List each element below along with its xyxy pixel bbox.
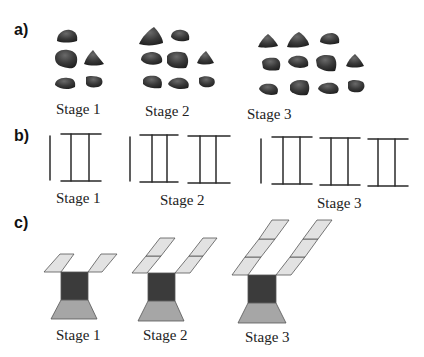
pebble [262,58,280,71]
pebble [290,80,309,95]
pattern-figure [0,0,424,357]
arm-tile-left [245,239,275,257]
pebble [287,32,309,48]
base-trapezoid [51,300,97,319]
part-a-stage-2-label: Stage 2 [145,103,190,120]
pebble [348,80,364,92]
part-c-stage-2 [132,238,217,321]
pebble [259,84,278,95]
part-c-stage-2-label: Stage 2 [143,327,188,344]
pebble [86,76,102,87]
body-square [61,272,88,300]
part-c-figure [44,220,332,323]
pebble [288,56,308,68]
part-b-stage-1-ladder [50,134,101,181]
arm-tile-right [276,257,305,275]
arm-tile-right [189,238,217,256]
part-b-stage-3-label: Stage 3 [317,195,362,212]
pebble [55,78,75,89]
part-b-figure [50,134,408,186]
pebble [199,76,215,87]
pebble [197,51,214,65]
part-b-stage-2-label: Stage 2 [160,192,205,209]
part-b-stage-3-ladder [261,137,408,186]
part-c-stage-1 [44,254,117,319]
part-a-stage-3-label: Stage 3 [247,106,292,123]
body-square [248,275,276,303]
pebble [168,78,189,89]
arm-tile-right [175,256,203,273]
pebble [346,54,364,68]
pebble [316,55,336,71]
pebble [171,30,189,41]
pebble [57,30,77,43]
part-b-stage-1-label: Stage 1 [56,190,101,207]
pebble [167,52,188,69]
part-b-stage-2-ladder [130,135,230,183]
part-a-stage-1-label: Stage 1 [56,101,101,118]
arm-tile-right [290,239,318,257]
arm-tile-right [88,254,117,272]
part-c-stage-3-label: Stage 3 [245,329,290,346]
base-trapezoid [238,303,286,323]
arm-tile-left [132,256,161,273]
pebble [318,83,339,94]
part-a-stage-3-pebbles [258,32,364,95]
pebble [139,27,163,45]
part-a-stage-2-pebbles [139,27,215,89]
body-square [148,273,175,301]
part-a-stage-1-pebbles [55,30,104,89]
base-trapezoid [138,301,184,321]
arm-tile-left [259,220,289,239]
arm-tile-left [146,238,175,256]
pebble [141,52,162,65]
pebble [84,50,104,66]
pebble [55,50,77,69]
pebble [143,76,162,89]
part-a-figure [55,27,364,95]
part-c-stage-3 [232,220,332,323]
arm-tile-left [232,257,261,275]
arm-tile-left [44,254,74,272]
part-c-stage-1-label: Stage 1 [56,327,101,344]
pebble [320,33,339,44]
pebble [258,34,278,48]
arm-tile-right [303,220,332,239]
